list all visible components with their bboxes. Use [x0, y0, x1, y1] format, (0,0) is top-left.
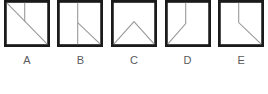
option-cell-a[interactable]: A — [0, 0, 54, 66]
figure-a[interactable] — [4, 0, 50, 47]
option-label-b: B — [77, 54, 84, 66]
option-label-a: A — [23, 54, 30, 66]
figure-c[interactable] — [111, 0, 157, 47]
option-label-c: C — [130, 54, 138, 66]
main-diagonal-a — [7, 3, 47, 44]
option-row: A B C — [0, 0, 268, 66]
lower-right-diagonal-b — [78, 23, 101, 45]
vertical-then-right-diagonal-e — [239, 3, 262, 44]
figure-b[interactable] — [57, 0, 103, 47]
option-cell-c[interactable]: C — [107, 0, 161, 66]
option-cell-e[interactable]: E — [214, 0, 268, 66]
vertical-then-left-diagonal-d — [167, 3, 185, 44]
option-cell-b[interactable]: B — [54, 0, 108, 66]
option-label-d: D — [184, 54, 192, 66]
option-cell-d[interactable]: D — [161, 0, 215, 66]
multiple-choice-figure-panel: A B C — [0, 0, 268, 94]
chevron-peak-c — [114, 22, 154, 45]
option-label-e: E — [238, 54, 245, 66]
figure-e[interactable] — [218, 0, 264, 47]
figure-d[interactable] — [165, 0, 211, 47]
